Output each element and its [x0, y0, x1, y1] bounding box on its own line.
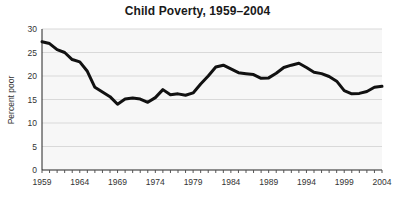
y-tick-label: 5 — [32, 142, 37, 152]
x-tick-label: 1959 — [33, 177, 52, 187]
x-tick-label: 1999 — [335, 177, 354, 187]
x-tick-label: 1989 — [259, 177, 278, 187]
x-tick-label: 1974 — [146, 177, 165, 187]
y-axis-title: Percent poor — [6, 75, 16, 124]
x-tick-label: 1979 — [184, 177, 203, 187]
x-tick-label: 1994 — [297, 177, 316, 187]
y-tick-label: 20 — [28, 71, 38, 81]
x-tick-label: 1964 — [70, 177, 89, 187]
y-tick-label: 30 — [28, 24, 38, 34]
y-tick-label: 10 — [28, 118, 38, 128]
y-tick-label: 0 — [32, 165, 37, 175]
y-tick-label: 25 — [28, 48, 38, 58]
x-tick-label: 1984 — [221, 177, 240, 187]
line-chart-plot: 051015202530 195919641969197419791984198… — [0, 0, 395, 199]
x-tick-label: 2004 — [373, 177, 392, 187]
y-tick-label: 15 — [28, 95, 38, 105]
x-axis-tick-labels: 1959196419691974197919841989199419992004 — [33, 177, 392, 187]
y-axis-tick-labels: 051015202530 — [28, 24, 38, 175]
chart-figure: Child Poverty, 1959–2004 051015202530 19… — [0, 0, 395, 199]
x-tick-label: 1969 — [108, 177, 127, 187]
